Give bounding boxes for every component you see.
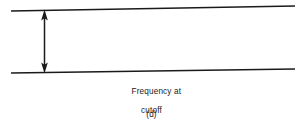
- waveguide-cutoff-figure: Frequency at cutoff (d): [0, 0, 303, 129]
- frequency-at-cutoff-annotation: Frequency at cutoff: [0, 78, 303, 129]
- panel-label: (d): [0, 110, 303, 119]
- annotation-line-1: Frequency at: [132, 87, 182, 96]
